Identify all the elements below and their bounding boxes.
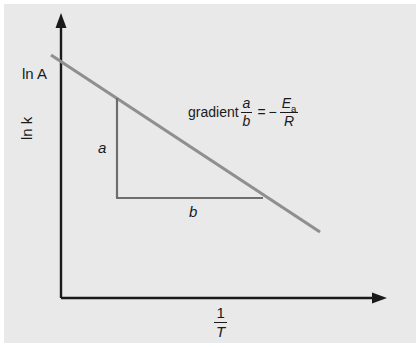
activation-energy-symbol: E — [282, 95, 291, 111]
y-axis-arrowhead — [56, 13, 67, 28]
x-axis-fraction: 1 T — [214, 305, 227, 340]
x-axis-title: 1 T — [212, 305, 229, 340]
rise-label: a — [98, 140, 106, 155]
activation-energy-fraction: Ea R — [280, 96, 299, 129]
gradient-fraction: a b — [241, 96, 253, 129]
y-intercept-text: ln A — [22, 65, 47, 82]
minus-sign: − — [269, 105, 278, 119]
activation-energy-numerator: Ea — [280, 96, 299, 113]
gradient-denominator: b — [241, 113, 253, 129]
x-axis-denominator: T — [214, 323, 227, 340]
x-axis-arrowhead — [372, 293, 387, 304]
trend-line — [51, 55, 320, 232]
gas-constant-symbol: R — [280, 113, 299, 129]
gradient-expression: gradient a b = − Ea R — [188, 96, 300, 129]
y-intercept-label: ln A — [22, 66, 47, 81]
equals-sign: = — [254, 105, 268, 119]
gradient-word: gradient — [188, 105, 239, 119]
rise-label-text: a — [98, 139, 106, 156]
y-axis-title: ln k — [19, 117, 34, 140]
arrhenius-plot-graphic — [0, 0, 420, 347]
x-axis-numerator: 1 — [214, 305, 227, 323]
gradient-numerator: a — [241, 96, 253, 113]
run-label-text: b — [189, 203, 197, 220]
run-label: b — [189, 204, 197, 219]
figure-container: ln A ln k a b 1 T gradient a b = − Ea R — [0, 0, 420, 347]
gradient-annotation: gradient a b = − Ea R — [188, 96, 300, 129]
y-axis-title-text: ln k — [18, 117, 35, 140]
